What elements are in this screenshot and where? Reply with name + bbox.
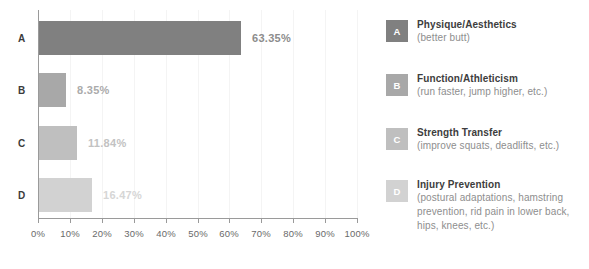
legend-text: Function/Athleticism(run faster, jump hi… [417, 72, 587, 99]
category-label-c: C [18, 138, 26, 149]
x-axis-tick [198, 218, 199, 223]
bar-chart-figure: 0%10%20%30%40%50%60%70%80%90%100% 63.35%… [0, 0, 589, 269]
x-axis-tick [166, 218, 167, 223]
legend-text: Strength Transfer(improve squats, deadli… [417, 126, 587, 153]
bar [39, 73, 66, 107]
x-axis-tick [229, 218, 230, 223]
x-axis-tick [102, 218, 103, 223]
legend-title: Strength Transfer [417, 126, 587, 139]
legend-subtitle: (run faster, jump higher, etc.) [417, 85, 587, 99]
x-axis-tick-label: 70% [251, 228, 271, 239]
x-axis-tick-label: 80% [283, 228, 303, 239]
bar [39, 126, 77, 160]
gridline [357, 10, 358, 218]
gridline [325, 10, 326, 218]
x-axis-tick-label: 0% [31, 228, 45, 239]
category-label-d: D [18, 190, 26, 201]
bar-value-label: 8.35% [77, 84, 110, 96]
legend-title: Injury Prevention [417, 178, 587, 191]
x-axis-tick-label: 40% [156, 228, 176, 239]
x-axis-tick [70, 218, 71, 223]
x-axis-tick [357, 218, 358, 223]
x-axis-tick-label: 60% [219, 228, 239, 239]
x-axis-tick [261, 218, 262, 223]
legend-subtitle: (better butt) [417, 31, 587, 45]
bar-value-label: 16.47% [103, 189, 142, 201]
bar [39, 21, 241, 55]
x-axis-tick-label: 10% [60, 228, 80, 239]
legend-title: Physique/Aesthetics [417, 18, 587, 31]
x-axis-tick [134, 218, 135, 223]
legend-text: Injury Prevention(postural adaptations, … [417, 178, 587, 233]
legend-text: Physique/Aesthetics(better butt) [417, 18, 587, 45]
legend-swatch-c: C [386, 128, 408, 150]
x-axis-tick-label: 100% [344, 228, 369, 239]
bar-value-label: 63.35% [252, 32, 291, 44]
legend-subtitle: (postural adaptations, hamstring prevent… [417, 191, 587, 233]
legend-swatch-b: B [386, 74, 408, 96]
gridline [293, 10, 294, 218]
category-label-a: A [18, 33, 26, 44]
x-axis-tick [293, 218, 294, 223]
x-axis-tick [38, 218, 39, 223]
plot-area: 0%10%20%30%40%50%60%70%80%90%100% 63.35%… [0, 0, 372, 269]
bar [39, 178, 92, 212]
legend-subtitle: (improve squats, deadlifts, etc.) [417, 139, 587, 153]
x-axis-tick-label: 20% [92, 228, 112, 239]
legend: APhysique/Aesthetics(better butt)BFuncti… [384, 0, 589, 269]
legend-swatch-d: D [386, 180, 408, 202]
category-label-b: B [18, 85, 26, 96]
x-axis-tick-label: 30% [124, 228, 144, 239]
legend-title: Function/Athleticism [417, 72, 587, 85]
x-axis-tick-label: 90% [315, 228, 335, 239]
bar-value-label: 11.84% [88, 137, 127, 149]
x-axis-tick [325, 218, 326, 223]
x-axis-tick-label: 50% [188, 228, 208, 239]
legend-swatch-a: A [386, 20, 408, 42]
